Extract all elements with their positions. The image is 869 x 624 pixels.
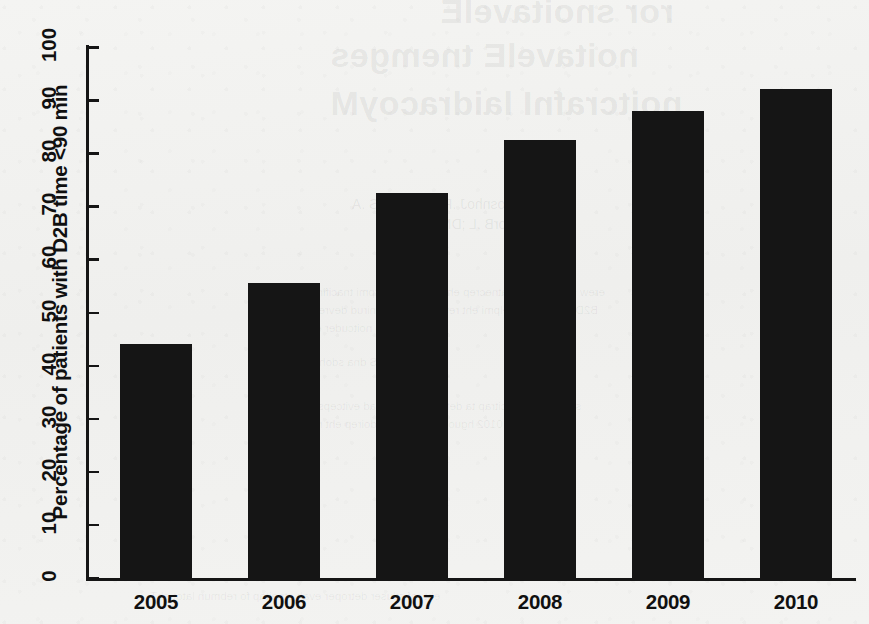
y-axis-line [86, 45, 89, 580]
y-tick-mark [88, 205, 99, 208]
y-tick-label: 50 [37, 288, 61, 334]
bar [504, 140, 576, 578]
y-tick-mark [88, 99, 99, 102]
y-tick-label: 0 [37, 553, 61, 599]
x-tick-label: 2010 [746, 590, 846, 614]
bar [120, 344, 192, 578]
y-tick-label: 60 [37, 234, 61, 280]
y-tick-mark [88, 46, 99, 49]
y-tick-label: 40 [37, 341, 61, 387]
bar [632, 111, 704, 578]
chart-page: ror snoitavelE noitavelE tnemges noitcra… [0, 0, 869, 624]
x-tick-label: 2008 [490, 590, 590, 614]
x-tick-label: 2005 [106, 590, 206, 614]
bar [248, 283, 320, 578]
y-tick-label: 80 [37, 128, 61, 174]
y-tick-label: 30 [37, 394, 61, 440]
y-tick-mark [88, 312, 99, 315]
y-tick-label: 20 [37, 447, 61, 493]
y-tick-mark [88, 471, 99, 474]
y-tick-mark [88, 524, 99, 527]
bar [376, 193, 448, 578]
x-tick-label: 2007 [362, 590, 462, 614]
y-tick-mark [88, 152, 99, 155]
bar [760, 89, 832, 578]
y-tick-label: 10 [37, 500, 61, 546]
y-tick-mark [88, 418, 99, 421]
y-tick-label: 70 [37, 181, 61, 227]
x-tick-label: 2009 [618, 590, 718, 614]
bar-chart: Percentage of patients with D2B time <90… [0, 0, 869, 624]
y-tick-mark [88, 258, 99, 261]
y-tick-label: 90 [37, 75, 61, 121]
x-axis-line [86, 578, 856, 581]
x-tick-label: 2006 [234, 590, 334, 614]
y-tick-label: 100 [37, 22, 61, 68]
y-tick-mark [88, 365, 99, 368]
